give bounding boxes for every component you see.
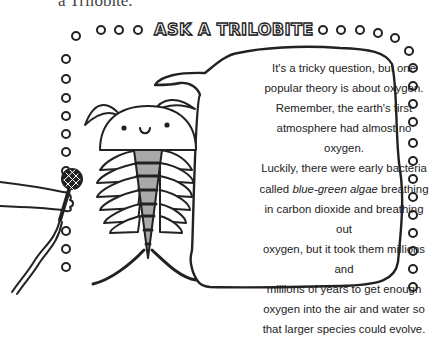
bubble-line: It's a tricky question, but one <box>257 58 431 78</box>
bubble-line: called blue-green algae breathing <box>257 179 431 199</box>
bubble-line: oxygen, but it took them millions and <box>257 239 431 279</box>
bubble-line-start: called <box>259 183 292 195</box>
bubble-line: millions of years to get enough <box>257 279 431 299</box>
microphone-icon <box>0 169 82 294</box>
bubble-line: atmosphere had almost no oxygen. <box>257 118 431 158</box>
bubble-line: Remember, the earth's first <box>257 98 431 118</box>
bubble-line: popular theory is about oxygen. <box>257 78 431 98</box>
bubble-line: that larger species could evolve. <box>257 319 431 339</box>
bubble-line: Luckily, there were early bacteria <box>257 158 431 178</box>
bubble-line-end: breathing <box>378 183 429 195</box>
trilobite-icon <box>85 100 196 284</box>
bubble-line: in carbon dioxide and breathing out <box>257 199 431 239</box>
speech-bubble-text: It's a tricky question, but one popular … <box>257 58 431 339</box>
emphasized-term: blue-green algae <box>292 183 378 195</box>
bubble-line: oxygen into the air and water so <box>257 299 431 319</box>
